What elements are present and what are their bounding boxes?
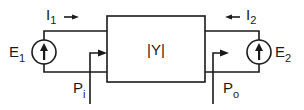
- right-top-wire: [205, 31, 259, 40]
- e2-arrow-up-icon: [255, 43, 263, 51]
- i2-arrow-left-icon: [225, 15, 232, 20]
- i1-arrow-right-icon: [72, 15, 79, 20]
- po-label: Po: [223, 79, 239, 100]
- i2-label: I2: [246, 6, 256, 26]
- pi-power-line: [90, 53, 100, 104]
- pi-label: Pi: [73, 79, 85, 100]
- left-top-wire: [44, 31, 107, 40]
- y-block-label: |Y|: [147, 41, 165, 58]
- e2-label: E2: [275, 43, 291, 64]
- e1-arrow-up-icon: [40, 43, 48, 51]
- pi-arrow-right-icon: [98, 50, 107, 57]
- po-power-line: [213, 53, 222, 104]
- left-bottom-wire: [44, 64, 107, 72]
- two-port-network-diagram: |Y| I1 I2 E1 E2 Pi Po: [0, 0, 304, 110]
- po-arrow-right-icon: [220, 50, 229, 57]
- e1-label: E1: [9, 43, 25, 64]
- i1-label: I1: [46, 6, 56, 26]
